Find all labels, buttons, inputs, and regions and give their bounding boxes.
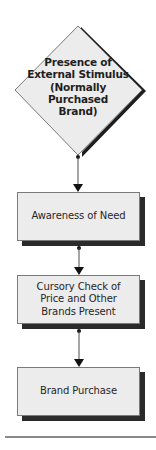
step-brand-purchase: Brand Purchase [17,367,140,416]
flowchart: Presence of External Stimulus (Normally … [0,0,156,450]
step-label: Brand Purchase [40,385,117,398]
connector-1 [73,155,83,192]
step-cursory-check: Cursory Check of Price and Other Brands … [17,275,140,324]
step-label: Brands Present [41,306,115,319]
connector-3 [74,329,84,367]
diamond-line: Presence of [26,56,130,68]
diamond-line: (Normally [26,81,130,93]
arrowhead-icon [73,184,83,192]
step-label: Awareness of Need [31,210,125,223]
diamond-line: Brand) [26,105,130,117]
step-awareness-of-need: Awareness of Need [17,192,140,241]
bottom-divider [5,436,156,438]
connector-2 [74,246,84,275]
step-label: Price and Other [40,293,116,306]
arrowhead-icon [74,359,84,367]
step-label: Cursory Check of [37,281,121,294]
diamond-line: External Stimulus [26,68,130,80]
arrowhead-icon [74,267,84,275]
decision-diamond-label: Presence of External Stimulus (Normally … [26,56,130,117]
diamond-line: Purchased [26,93,130,105]
